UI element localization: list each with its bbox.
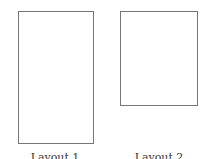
layout-1-rectangle [18,11,94,144]
layout-1-label: Layout 1 [10,151,100,159]
layout-2-rectangle [120,11,198,106]
layout-2-label: Layout 2 [114,151,203,159]
